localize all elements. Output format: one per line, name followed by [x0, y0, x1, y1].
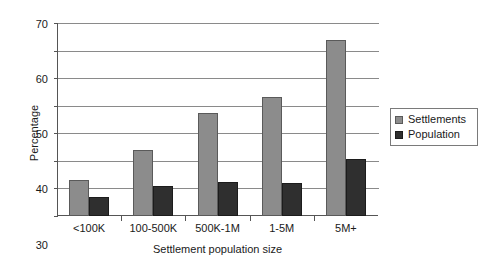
bar-settlements-0 [69, 180, 89, 216]
y-axis-tick-label: 70 [36, 19, 48, 30]
legend-label-population: Population [408, 129, 460, 140]
legend-swatch-population-icon [395, 131, 403, 139]
chart-legend: Settlements Population [390, 108, 478, 146]
bar-chart: Percentage 010203040506070 <100K100-500K… [0, 0, 486, 265]
bar-settlements-4 [326, 40, 346, 216]
bar-settlements-3 [262, 97, 282, 216]
x-axis-title: Settlement population size [57, 243, 378, 255]
legend-item-population: Population [395, 127, 473, 142]
bar-population-2 [218, 182, 238, 216]
x-axis-category-label: 500K-1M [195, 222, 240, 234]
bar-population-4 [346, 159, 366, 216]
y-axis-tick-label: 40 [36, 184, 48, 195]
x-axis-category-label: <100K [73, 222, 105, 234]
x-axis-category-label: 5M+ [335, 222, 357, 234]
y-axis-tick-label: 30 [36, 239, 48, 250]
bar-settlements-1 [133, 150, 153, 216]
x-axis-tick [121, 216, 122, 221]
bar-population-1 [153, 186, 173, 216]
bars-group [57, 23, 378, 216]
legend-swatch-settlements-icon [395, 116, 403, 124]
x-axis-category-label: 100-500K [129, 222, 177, 234]
legend-label-settlements: Settlements [408, 114, 466, 125]
x-axis-category-label: 1-5M [269, 222, 294, 234]
legend-item-settlements: Settlements [395, 112, 473, 127]
x-axis-tick [185, 216, 186, 221]
y-axis-tick-label: 60 [36, 74, 48, 85]
bar-population-3 [282, 183, 302, 216]
x-axis-tick [314, 216, 315, 221]
bar-settlements-2 [198, 113, 218, 216]
bar-population-0 [89, 197, 109, 216]
y-axis-tick: 0 [54, 216, 58, 217]
x-axis-tick [250, 216, 251, 221]
y-axis-tick-label: 50 [36, 129, 48, 140]
